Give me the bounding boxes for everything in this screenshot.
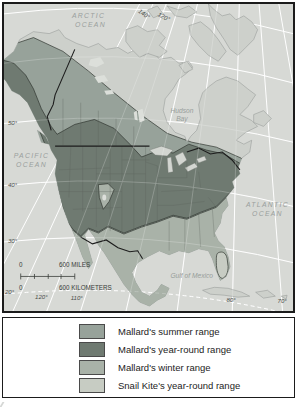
hudson-bay-label: Bay — [176, 115, 188, 123]
arctic-ocean-label: ARCTIC — [71, 12, 105, 19]
longitude-label-80-bottom: 80° — [226, 296, 236, 303]
longitude-label-110-bottom: 110° — [71, 294, 84, 301]
latitude-label-40: 40° — [8, 181, 18, 188]
longitude-label-70-bottom: 70° — [278, 297, 288, 304]
longitude-label-120-bottom: 120° — [35, 293, 48, 300]
scale-miles-label: 600 MILES — [59, 261, 90, 268]
map-canvas: ARCTIC OCEAN PACIFIC OCEAN ATLANTIC OCEA… — [4, 4, 293, 311]
winter-range-swatch — [79, 360, 105, 375]
snail-kite-range-region — [216, 252, 228, 278]
map-legend: Mallard's summer range Mallard's year-ro… — [2, 317, 295, 398]
year-round-range-swatch — [79, 342, 105, 357]
gulf-of-mexico-label: Gulf of Mexico — [170, 272, 213, 279]
latitude-label-50: 50° — [8, 119, 18, 126]
scale-km-zero: 0 — [19, 284, 23, 291]
legend-item-snail-kite: Snail Kite's year-round range — [3, 376, 294, 394]
great-salt-lake — [102, 195, 106, 201]
hudson-bay-label: Hudson — [170, 107, 193, 114]
legend-item-summer: Mallard's summer range — [3, 322, 294, 340]
summer-range-swatch — [79, 324, 105, 339]
legend-label-summer: Mallard's summer range — [118, 326, 220, 337]
latitude-label-20: 20° — [4, 288, 15, 295]
atlantic-ocean-label: OCEAN — [252, 210, 283, 217]
scale-km-label: 600 KILOMETERS — [59, 284, 112, 291]
legend-item-winter: Mallard's winter range — [3, 358, 294, 376]
scale-miles-zero: 0 — [19, 261, 23, 268]
legend-label-snail-kite: Snail Kite's year-round range — [118, 380, 240, 391]
pacific-ocean-label: OCEAN — [16, 161, 47, 168]
legend-label-year-round: Mallard's year-round range — [118, 344, 231, 355]
legend-label-winter: Mallard's winter range — [118, 362, 211, 373]
pacific-ocean-label: PACIFIC — [14, 152, 50, 159]
print-artifact — [0, 402, 11, 407]
range-map: ARCTIC OCEAN PACIFIC OCEAN ATLANTIC OCEA… — [2, 2, 295, 313]
arctic-ocean-label: OCEAN — [75, 21, 106, 28]
snail-kite-range-swatch — [79, 378, 105, 393]
atlantic-ocean-label: ATLANTIC — [245, 201, 289, 208]
latitude-label-30: 30° — [8, 237, 18, 244]
legend-item-year-round: Mallard's year-round range — [3, 340, 294, 358]
